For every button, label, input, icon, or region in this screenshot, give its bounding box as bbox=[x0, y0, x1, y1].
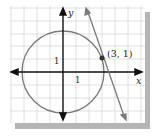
x-tick-label: 1 bbox=[75, 75, 80, 85]
point-label: (3, 1) bbox=[107, 48, 133, 59]
tangent-point bbox=[100, 56, 105, 61]
circle-tangent-diagram: (3, 1) y x 1 1 bbox=[0, 0, 154, 137]
y-tick-label: 1 bbox=[54, 56, 59, 66]
x-axis-label: x bbox=[136, 75, 142, 86]
y-axis-label: y bbox=[67, 7, 74, 18]
grid-background bbox=[10, 6, 145, 123]
